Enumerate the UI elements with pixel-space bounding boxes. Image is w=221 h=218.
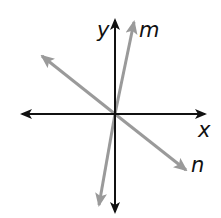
x-axis-label: x (197, 118, 211, 142)
y-axis-label: y (96, 18, 110, 42)
coordinate-diagram: y x m n (0, 0, 221, 218)
line-n-upper (42, 56, 115, 114)
line-n (115, 114, 186, 170)
line-m-lower (99, 114, 115, 205)
line-n-label: n (191, 153, 204, 177)
line-m-label: m (139, 18, 159, 42)
line-m (115, 22, 134, 114)
